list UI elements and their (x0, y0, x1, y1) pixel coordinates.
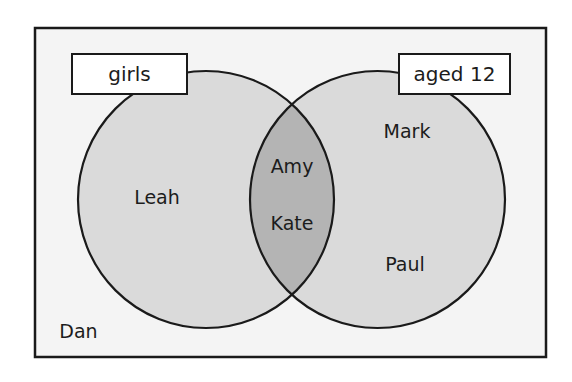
set-label-girls: girls (72, 54, 187, 94)
member-amy: Amy (271, 155, 314, 177)
venn-diagram: girls aged 12 Leah Amy Kate Mark Paul Da… (0, 0, 572, 382)
member-dan: Dan (59, 320, 97, 342)
label-text-aged-12: aged 12 (414, 62, 496, 86)
member-mark: Mark (384, 120, 431, 142)
member-paul: Paul (385, 253, 425, 275)
set-label-aged-12: aged 12 (399, 54, 510, 94)
member-leah: Leah (134, 186, 180, 208)
label-text-girls: girls (108, 62, 150, 86)
member-kate: Kate (271, 212, 314, 234)
